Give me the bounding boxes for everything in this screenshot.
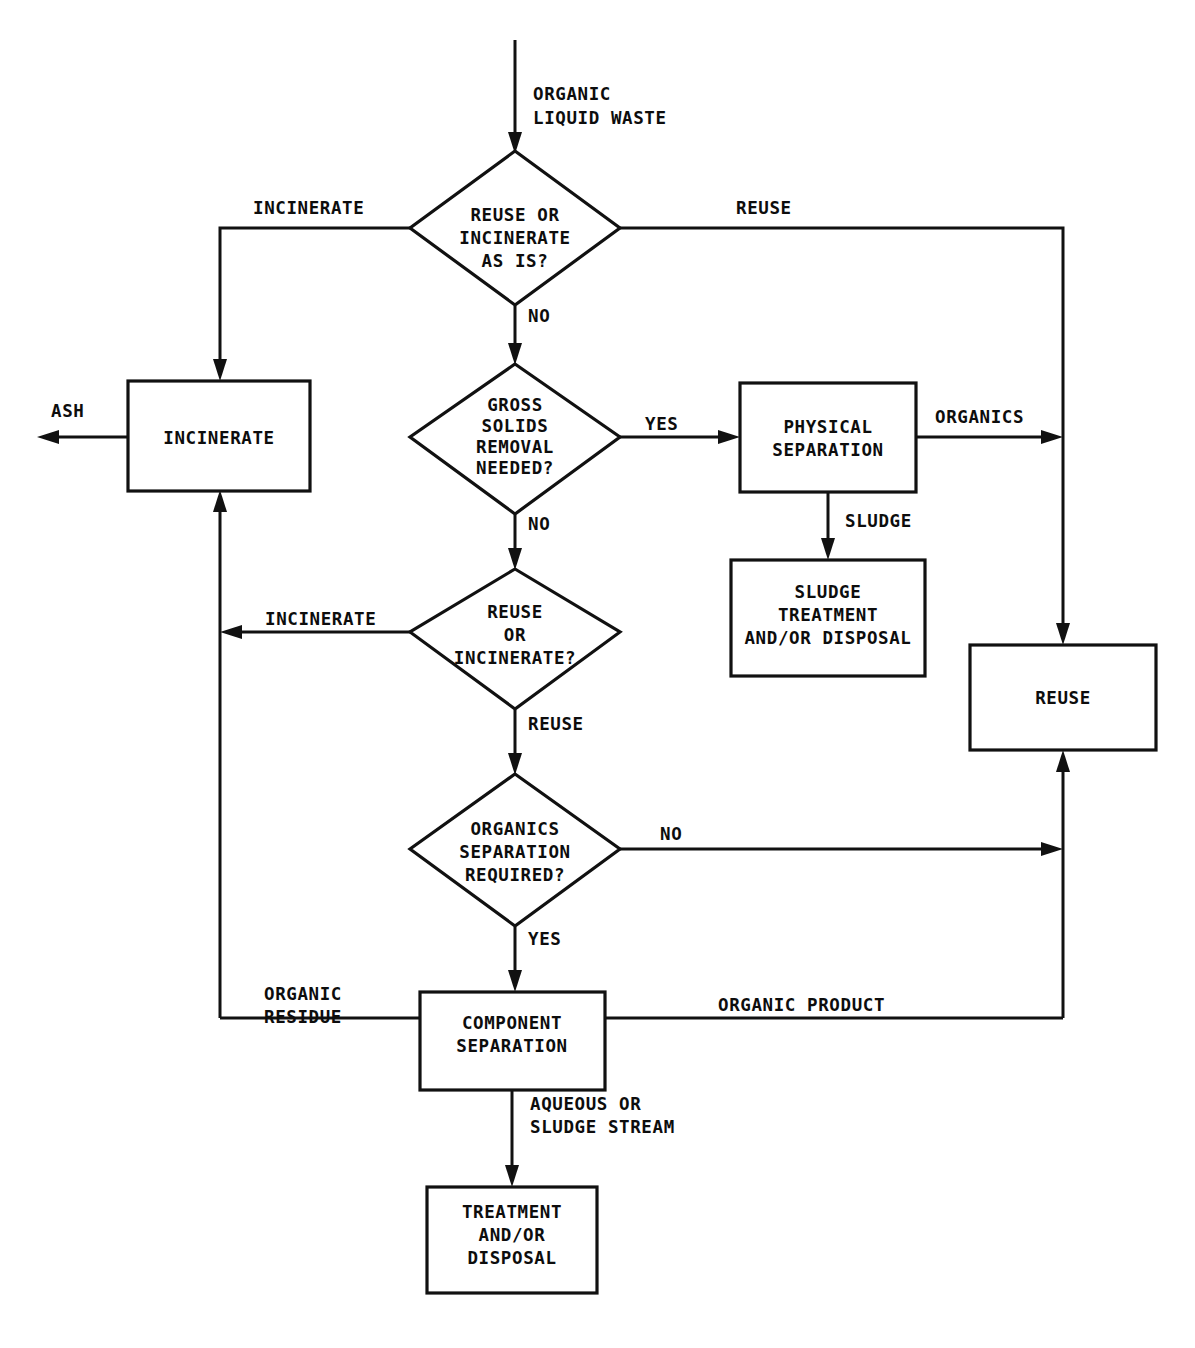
label-sludge: SLUDGE xyxy=(845,511,912,531)
decision-reuse-or-incinerate-as-is[interactable]: REUSE OR INCINERATE AS IS? xyxy=(410,151,620,305)
label-aqueous-stream-line2: SLUDGE STREAM xyxy=(530,1117,675,1137)
connector-incinerate-top xyxy=(213,228,410,381)
label-ash: ASH xyxy=(51,401,84,421)
connector-reuse-mid xyxy=(508,710,522,775)
process-sludge-treatment-line3: AND/OR DISPOSAL xyxy=(744,628,911,648)
decision-organics-sep-line3: REQUIRED? xyxy=(465,865,565,885)
process-incinerate[interactable]: INCINERATE xyxy=(128,381,310,491)
process-sludge-treatment[interactable]: SLUDGE TREATMENT AND/OR DISPOSAL xyxy=(731,560,925,676)
process-reuse[interactable]: REUSE xyxy=(970,645,1156,750)
decision-gross-solids-line4: NEEDED? xyxy=(476,458,554,478)
decision-gross-solids-line3: REMOVAL xyxy=(476,437,554,457)
label-yes-gross-solids: YES xyxy=(645,414,678,434)
process-physical-separation[interactable]: PHYSICAL SEPARATION xyxy=(740,383,916,492)
process-treatment-disposal[interactable]: TREATMENT AND/OR DISPOSAL xyxy=(427,1187,597,1293)
connector-reuse-trunk-up xyxy=(1056,750,1070,1018)
label-incinerate-mid: INCINERATE xyxy=(265,609,376,629)
decision-reuse-or-incinerate[interactable]: REUSE OR INCINERATE? xyxy=(410,569,620,709)
connector-inlet xyxy=(508,40,522,154)
connector-yes-gross-solids xyxy=(620,430,740,444)
process-sludge-treatment-line1: SLUDGE xyxy=(795,582,862,602)
label-organic-product: ORGANIC PRODUCT xyxy=(718,995,885,1015)
process-reuse-label: REUSE xyxy=(1035,688,1091,708)
label-aqueous-stream-line1: AQUEOUS OR xyxy=(530,1094,641,1114)
decision-reuse-incinerate-line2: OR xyxy=(504,625,526,645)
label-incinerate-top: INCINERATE xyxy=(253,198,364,218)
label-no-after-as-is: NO xyxy=(528,306,550,326)
decision-as-is-line2: INCINERATE xyxy=(459,228,570,248)
connector-organics xyxy=(916,430,1063,444)
connector-no-gross-solids xyxy=(508,515,522,570)
process-component-separation-line1: COMPONENT xyxy=(462,1013,562,1033)
decision-organics-sep-line1: ORGANICS xyxy=(470,819,559,839)
decision-organics-sep-line2: SEPARATION xyxy=(459,842,570,862)
process-physical-separation-line1: PHYSICAL xyxy=(783,417,872,437)
label-organics: ORGANICS xyxy=(935,407,1024,427)
label-reuse-mid: REUSE xyxy=(528,714,584,734)
connector-yes-organics-sep xyxy=(508,927,522,992)
connector-sludge xyxy=(821,492,835,560)
process-sludge-treatment-line2: TREATMENT xyxy=(778,605,878,625)
connector-incinerate-trunk xyxy=(213,490,227,1018)
decision-reuse-incinerate-line1: REUSE xyxy=(487,602,543,622)
label-reuse-top: REUSE xyxy=(736,198,792,218)
flowchart-canvas: REUSE OR INCINERATE AS IS? INCINERATE GR… xyxy=(0,0,1195,1348)
connector-no-as-is xyxy=(508,306,522,365)
process-treatment-disposal-line1: TREATMENT xyxy=(462,1202,562,1222)
process-physical-separation-line2: SEPARATION xyxy=(772,440,883,460)
connector-aqueous-sludge-stream xyxy=(505,1090,519,1187)
label-start-stream-line1: ORGANIC xyxy=(533,84,611,104)
connector-ash xyxy=(37,430,128,444)
process-treatment-disposal-line2: AND/OR xyxy=(479,1225,546,1245)
decision-as-is-line3: AS IS? xyxy=(482,251,549,271)
decision-as-is-line1: REUSE OR xyxy=(470,205,559,225)
label-yes-organics-separation: YES xyxy=(528,929,561,949)
label-organic-residue-line2: RESIDUE xyxy=(264,1007,342,1027)
decision-reuse-incinerate-line3: INCINERATE? xyxy=(454,648,577,668)
process-component-separation[interactable]: COMPONENT SEPARATION xyxy=(420,992,605,1090)
flowchart-page: REUSE OR INCINERATE AS IS? INCINERATE GR… xyxy=(0,0,1195,1348)
decision-organics-separation[interactable]: ORGANICS SEPARATION REQUIRED? xyxy=(410,774,620,926)
decision-gross-solids-removal[interactable]: GROSS SOLIDS REMOVAL NEEDED? xyxy=(410,364,620,514)
label-no-organics-separation: NO xyxy=(660,824,682,844)
label-organic-residue-line1: ORGANIC xyxy=(264,984,342,1004)
process-treatment-disposal-line3: DISPOSAL xyxy=(467,1248,556,1268)
connector-no-organics-sep xyxy=(620,842,1063,856)
decision-gross-solids-line1: GROSS xyxy=(487,395,543,415)
process-component-separation-line2: SEPARATION xyxy=(456,1036,567,1056)
label-no-gross-solids: NO xyxy=(528,514,550,534)
label-start-stream-line2: LIQUID WASTE xyxy=(533,108,667,128)
process-incinerate-label: INCINERATE xyxy=(163,428,274,448)
decision-gross-solids-line2: SOLIDS xyxy=(482,416,549,436)
